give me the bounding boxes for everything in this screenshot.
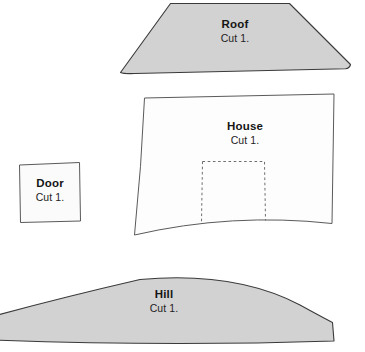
pattern-shapes-canvas <box>0 0 365 352</box>
door-shape[interactable] <box>20 163 81 223</box>
house-shape[interactable] <box>135 94 335 235</box>
pattern-sheet: Roof Cut 1. House Cut 1. Door Cut 1. Hil… <box>0 0 365 352</box>
hill-shape[interactable] <box>0 278 334 344</box>
roof-shape[interactable] <box>121 4 351 74</box>
